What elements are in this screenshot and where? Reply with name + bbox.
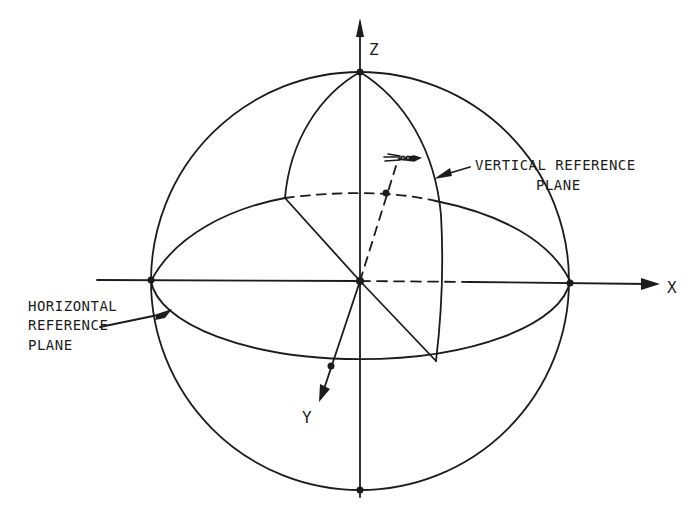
horizontal-plane-label-line1: HORIZONTAL [28,298,117,315]
horizontal-plane-label-line2: REFERENCE [28,317,108,334]
vertical-plane-leader-arrowhead-icon [434,168,452,179]
x-axis-line-hidden [360,281,470,282]
horizontal-plane-label-line3: PLANE [28,337,73,354]
vertical-plane-right-arc [360,72,442,361]
vertical-plane-back-radius [285,198,360,281]
horizontal-plane-leader-arrowhead-icon [155,309,172,320]
line-of-sight-dashed [360,166,396,281]
sphere-reference-diagram [0,0,692,509]
x-axis-line-left [97,280,360,281]
horizontal-plane-back-right-arc [436,201,570,281]
x-left-point [148,277,155,284]
y-plane-point [328,363,335,370]
z-top-point [357,69,364,76]
z-bottom-point [357,487,364,494]
y-axis-line [321,281,360,398]
aircraft-icon [384,154,420,161]
horizontal-plane-leader [100,315,158,327]
x-axis-label: X [667,279,677,296]
horizontal-plane-back-left-arc [151,198,285,281]
vertical-plane-label-line1: VERTICAL REFERENCE [475,157,636,174]
x-right-point [567,280,574,287]
y-axis-label: Y [302,409,312,426]
vertical-plane-front-radius [360,281,436,361]
z-axis-label: Z [369,41,379,58]
x-axis-line-right [470,282,648,284]
x-axis-arrowhead-icon [641,278,660,290]
y-axis-arrowhead-icon [319,384,330,402]
los-projection-point [383,190,390,197]
vertical-plane-left-arc [285,72,360,198]
z-axis-arrowhead-icon [356,18,364,37]
vertical-plane-label-line2: PLANE [536,177,581,194]
origin-point [356,277,364,285]
